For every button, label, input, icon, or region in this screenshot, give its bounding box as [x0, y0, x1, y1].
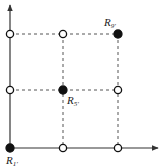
point-filled-r5: [59, 86, 67, 94]
point-filled-r9: [114, 30, 122, 38]
label-r1: R1': [5, 154, 18, 168]
label-r5: R5': [66, 94, 79, 108]
point-hollow: [6, 86, 13, 93]
point-hollow: [114, 144, 121, 151]
grid-points: [6, 30, 122, 152]
point-hollow: [6, 30, 13, 37]
grid-diagram: R9' R5' R1': [0, 0, 162, 168]
point-hollow: [59, 30, 66, 37]
point-hollow: [59, 144, 66, 151]
point-filled-r1: [6, 144, 14, 152]
label-r9: R9': [103, 16, 116, 30]
point-hollow: [114, 86, 121, 93]
